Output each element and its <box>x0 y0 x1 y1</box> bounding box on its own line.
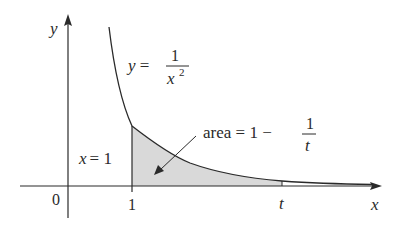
x-axis-label: x <box>370 195 379 214</box>
equation-numerator: 1 <box>171 47 179 64</box>
y-axis-label: y <box>48 19 58 38</box>
area-label-numerator: 1 <box>306 115 314 132</box>
equation-denominator-exponent: 2 <box>179 66 185 78</box>
area-label: area = 1 − <box>203 123 272 142</box>
area-label-denominator: t <box>305 136 311 155</box>
area-under-curve-diagram: y y = 1 x 2 x= 1 area = 1 − 1 t 0 1 t x <box>0 0 398 227</box>
equation-lhs: y = <box>126 56 149 75</box>
origin-label: 0 <box>52 191 60 208</box>
vertical-line-label: x= 1 <box>78 149 112 168</box>
tick-label-t: t <box>279 194 285 213</box>
tick-label-1: 1 <box>128 196 136 213</box>
equation-denominator-base: x <box>166 69 175 88</box>
